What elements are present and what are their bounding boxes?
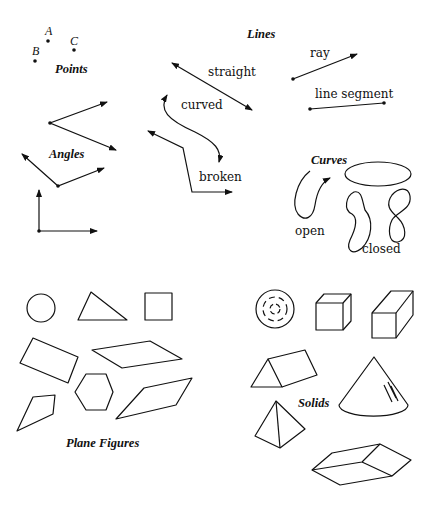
open-label: open [295, 224, 325, 238]
solids-group: Solids [251, 290, 413, 485]
plane-figures-group: Plane Figures [17, 292, 192, 450]
point-a-dot [46, 39, 50, 43]
plane-figures-title: Plane Figures [66, 436, 139, 450]
closed-curve-figure-eight [389, 189, 411, 242]
closed-label: closed [362, 242, 401, 256]
rectangular-prism-shape [372, 291, 413, 338]
obtuse-angle-vertex [56, 184, 60, 188]
acute-angle-vertex [48, 121, 52, 125]
quadrilateral-shape [17, 395, 55, 431]
ray-label: ray [310, 46, 330, 60]
solids-title: Solids [298, 396, 329, 410]
hexagon-shape [75, 374, 113, 410]
segment-endpoint-left [308, 107, 312, 111]
lines-title: Lines [246, 27, 276, 41]
points-group: A B C Points [32, 24, 88, 76]
angles-group: Angles [22, 102, 116, 233]
sphere-shape [256, 290, 294, 328]
triangular-prism-shape [251, 350, 317, 387]
right-angle [39, 190, 97, 231]
broken-label: broken [199, 170, 242, 184]
angles-title: Angles [48, 147, 85, 161]
right-angle-vertex [37, 229, 41, 233]
line-segment [310, 103, 384, 109]
rhombus-shape [116, 378, 192, 419]
geometry-diagram: A B C Points Lines straight ray line seg… [0, 0, 440, 506]
closed-curve-ellipse [345, 162, 411, 186]
curves-title: Curves [311, 153, 347, 167]
rectangle-shape [20, 338, 78, 383]
straight-label: straight [208, 65, 256, 79]
ray-endpoint [291, 77, 295, 81]
open-curve [295, 171, 330, 218]
cone-shape [339, 357, 408, 416]
curved-label: curved [181, 98, 223, 112]
circle-shape [27, 294, 55, 322]
triangle-shape [78, 292, 127, 320]
acute-angle [50, 102, 116, 150]
point-b-dot [33, 59, 37, 63]
point-c-dot [72, 48, 76, 52]
points-title: Points [55, 62, 88, 76]
segment-endpoint-right [382, 101, 386, 105]
point-b-label: B [32, 44, 40, 58]
hexagonal-prism-shape [312, 444, 411, 485]
line-segment-label: line segment [315, 87, 393, 101]
curves-group: Curves open closed [295, 153, 411, 256]
lines-group: Lines straight ray line segment curved b… [148, 27, 393, 192]
cube-shape [316, 294, 351, 330]
point-c-label: C [70, 34, 79, 48]
square-shape [145, 293, 172, 320]
point-a-label: A [44, 24, 53, 38]
parallelogram-shape [92, 341, 182, 368]
